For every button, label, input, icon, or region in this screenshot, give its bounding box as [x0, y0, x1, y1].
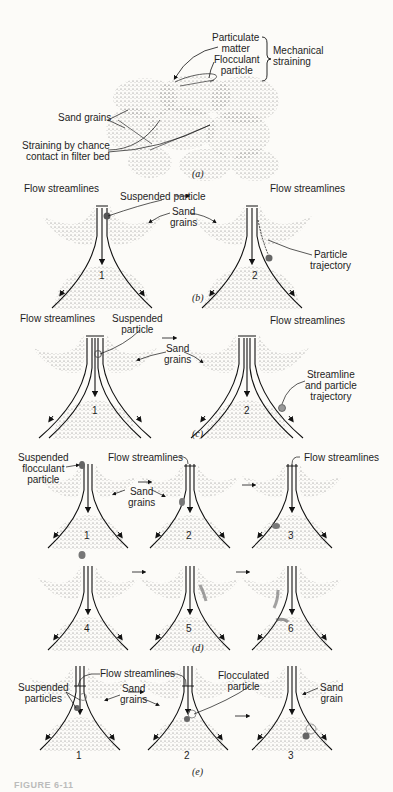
grain-number-d3: 3 — [288, 530, 294, 541]
grain-number-d1: 1 — [84, 530, 90, 541]
grain-number-e1: 1 — [76, 750, 82, 761]
label-chance-contact: Straining by chancecontact in filter bed — [22, 140, 110, 162]
grain-number-e3: 3 — [288, 750, 294, 761]
label-streamline-trajectory: Streamlineand particletrajectory — [305, 369, 357, 402]
caption-c: (c) — [192, 428, 203, 439]
grain-number-d4: 4 — [84, 623, 90, 634]
label-flow-streamlines-c-right: Flow streamlines — [270, 315, 345, 326]
caption-a: (a) — [192, 168, 204, 179]
grain-number-d2: 2 — [186, 530, 192, 541]
grain-number-d5: 5 — [186, 623, 192, 634]
grain-number-b2: 2 — [252, 270, 258, 281]
caption-b: (b) — [192, 292, 204, 303]
label-mechanical-straining: Mechanicalstraining — [273, 45, 324, 67]
label-suspended-particles-e: Suspendedparticles — [18, 682, 69, 704]
figure-caption-prefix: FIGURE 6-11 — [14, 780, 74, 790]
label-flocculated-particle: Flocculatedparticle — [218, 670, 269, 692]
label-suspended-flocculant: Suspendedflocculantparticle — [18, 452, 69, 485]
label-suspended-particle-c: Suspendedparticle — [112, 313, 163, 335]
caption-e: (e) — [192, 766, 203, 777]
label-flow-streamlines-d-mid: Flow streamlines — [108, 452, 183, 463]
grain-number-c1: 1 — [92, 405, 98, 416]
label-sand-grains-c: Sandgrains — [164, 343, 191, 365]
label-suspended-particle-b: Suspended particle — [120, 191, 206, 202]
label-particle-trajectory: Particletrajectory — [310, 249, 351, 271]
grain-number-c2: 2 — [244, 405, 250, 416]
label-sand-grains-d: Sandgrains — [128, 486, 155, 508]
panel-e-art — [30, 666, 342, 752]
label-sand-grains-a: Sand grains — [58, 112, 111, 123]
label-sand-grains-b: Sandgrains — [170, 206, 197, 228]
label-sand-grains-e: Sandgrains — [120, 683, 147, 705]
label-flow-streamlines-b-left: Flow streamlines — [24, 183, 99, 194]
label-particulate-matter: Particulatematter — [212, 32, 259, 54]
label-flow-streamlines-b-right: Flow streamlines — [270, 183, 345, 194]
label-flow-streamlines-d-right: Flow streamlines — [304, 452, 379, 463]
caption-d: (d) — [192, 642, 204, 653]
label-flow-streamlines-e: Flow streamlines — [100, 668, 175, 679]
grain-number-b1: 1 — [99, 270, 105, 281]
label-flocculant-particle: Flocculantparticle — [214, 54, 260, 76]
grain-number-d6: 6 — [288, 623, 294, 634]
label-flow-streamlines-c-left: Flow streamlines — [20, 313, 95, 324]
grain-number-e2: 2 — [184, 750, 190, 761]
label-sand-grain-e: Sandgrain — [320, 682, 343, 704]
